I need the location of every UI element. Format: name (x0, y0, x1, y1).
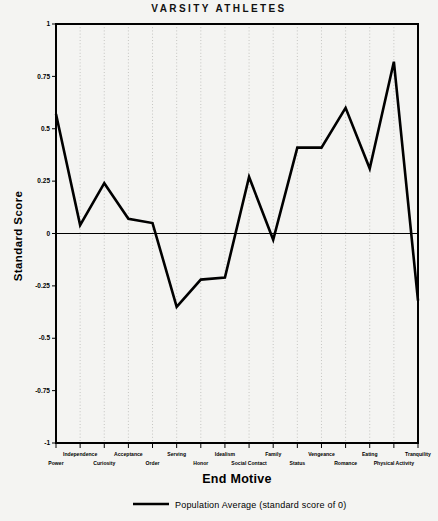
x-tick-label: Romance (334, 460, 357, 466)
x-axis-tick-labels: PowerIndependenceCuriosityAcceptanceOrde… (48, 451, 431, 466)
y-tick-label: 0.25 (37, 177, 50, 184)
y-axis-ticks: 10.750.50.250-0.25-0.5-0.75-1 (35, 20, 56, 446)
line-chart-svg: 10.750.50.250-0.25-0.5-0.75-1 PowerIndep… (0, 0, 438, 521)
y-axis-title: Standard Score (12, 191, 24, 282)
x-tick-label: Social Contact (231, 460, 267, 466)
chart-container: VARSITY ATHLETES 10.750.50.250-0.25-0.5-… (0, 0, 438, 521)
x-tick-label: Physical Activity (374, 460, 414, 466)
y-tick-label: 0.75 (37, 73, 50, 80)
x-tick-label: Curiosity (93, 460, 115, 466)
x-tick-label: Power (48, 460, 63, 466)
y-tick-label: -0.75 (35, 387, 50, 394)
y-tick-label: -0.25 (35, 282, 50, 289)
data-series-line (56, 62, 418, 307)
series-varsity-athletes (56, 62, 418, 307)
x-tick-label: Idealism (215, 451, 236, 457)
x-tick-label: Eating (362, 451, 378, 457)
y-tick-label: -1 (44, 439, 50, 446)
legend-label: Population Average (standard score of 0) (175, 500, 346, 510)
y-tick-label: 0.5 (41, 125, 50, 132)
x-axis-title: End Motive (202, 472, 272, 486)
x-tick-label: Acceptance (114, 451, 143, 457)
x-tick-label: Independence (63, 451, 97, 457)
x-tick-label: Order (146, 460, 160, 466)
x-tick-label: Family (265, 451, 281, 457)
y-tick-label: 0 (46, 230, 50, 237)
x-tick-label: Status (290, 460, 306, 466)
x-tick-label: Tranquility (405, 451, 431, 457)
y-tick-label: 1 (46, 20, 50, 27)
x-tick-label: Serving (167, 451, 186, 457)
y-tick-label: -0.5 (39, 334, 51, 341)
x-tick-label: Vengeance (308, 451, 335, 457)
x-tick-label: Honor (193, 460, 208, 466)
